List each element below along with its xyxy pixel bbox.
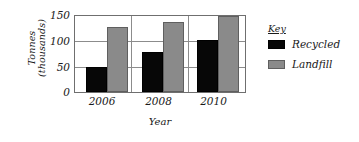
x-axis-title: Year	[74, 116, 246, 127]
legend-title: Key	[268, 24, 286, 34]
bar-group-2006	[75, 16, 131, 92]
bar-2008-landfill	[163, 22, 184, 92]
y-tick-100: 100	[42, 36, 70, 47]
y-tick-150: 150	[42, 10, 70, 21]
legend-label-recycled: Recycled	[292, 39, 340, 50]
bar-2006-landfill	[107, 27, 128, 92]
bar-2010-landfill	[218, 16, 239, 92]
bar-2008-recycled	[142, 52, 163, 92]
y-axis-tick-labels: 150 100 50 0	[42, 0, 70, 142]
x-axis-tick-labels: 2006 2008 2010	[74, 96, 246, 112]
legend-item-landfill: Landfill	[268, 59, 356, 70]
x-tick-2008: 2008	[130, 96, 187, 107]
legend-label-landfill: Landfill	[292, 59, 332, 70]
waste-bar-chart: Tonnes (thousands) 150 100 50 0 200	[0, 0, 359, 142]
plot-area	[74, 15, 246, 93]
legend-swatch-landfill-icon	[268, 60, 285, 69]
bar-group-2010	[188, 16, 245, 92]
y-tick-50: 50	[42, 62, 70, 73]
bar-group-2008	[131, 16, 188, 92]
legend-item-recycled: Recycled	[268, 39, 356, 50]
x-tick-2010: 2010	[185, 96, 242, 107]
bar-2006-recycled	[86, 67, 107, 92]
legend-swatch-recycled-icon	[268, 40, 285, 49]
legend: Key Recycled Landfill	[268, 17, 356, 79]
bar-2010-recycled	[197, 40, 218, 92]
y-tick-0: 0	[42, 87, 70, 98]
x-tick-2006: 2006	[74, 96, 130, 107]
